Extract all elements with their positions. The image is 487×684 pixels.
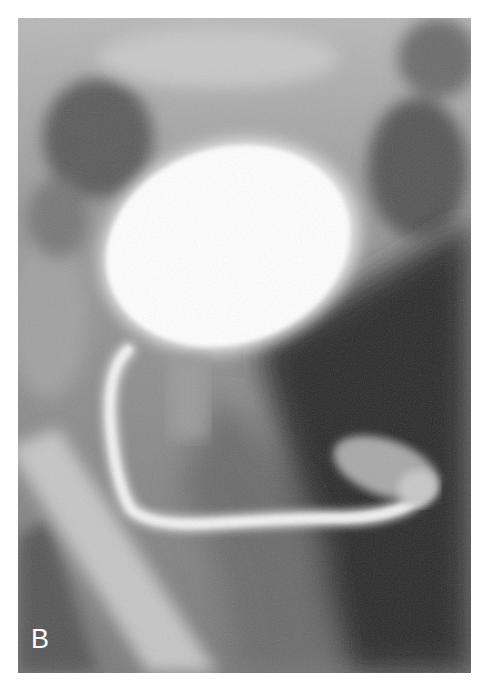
panel-label: B — [31, 626, 49, 653]
xray-figure: B — [18, 18, 471, 673]
xray-image — [18, 18, 471, 673]
